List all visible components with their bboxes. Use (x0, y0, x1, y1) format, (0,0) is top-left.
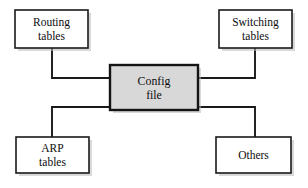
routing-tables-label-line2: tables (38, 30, 65, 42)
edge-config-to-arp (52, 107, 110, 137)
switching-tables-label-line1: Switching (232, 16, 279, 29)
config-file-label-line1: Config (138, 74, 171, 88)
config-file-diagram: Routing tables Switching tables Config f… (0, 0, 308, 188)
edge-switching-to-config (198, 48, 255, 78)
diagram-canvas: Routing tables Switching tables Config f… (0, 0, 308, 188)
arp-tables-label-line2: tables (39, 156, 66, 168)
switching-tables-label-line2: tables (242, 30, 269, 42)
arp-tables-label-line1: ARP (41, 142, 63, 154)
node-config-file[interactable]: Config file (110, 65, 201, 113)
node-arp-tables[interactable]: ARP tables (16, 137, 92, 176)
edge-routing-to-config (52, 48, 110, 78)
node-switching-tables[interactable]: Switching tables (219, 10, 295, 51)
node-others[interactable]: Others (216, 137, 294, 176)
config-file-label-line2: file (146, 88, 162, 102)
others-label-line1: Others (238, 149, 269, 161)
node-routing-tables[interactable]: Routing tables (15, 10, 91, 51)
edge-config-to-others (198, 107, 255, 137)
routing-tables-label-line1: Routing (33, 16, 70, 29)
